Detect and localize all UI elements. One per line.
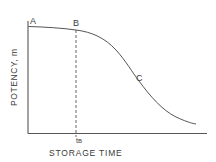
point-b-label: B xyxy=(73,19,79,28)
potency-curve xyxy=(29,27,197,125)
x-axis-label: STORAGE TIME xyxy=(49,148,123,158)
point-c-label: C xyxy=(136,74,143,83)
y-axis-label: POTENCY, m xyxy=(9,48,19,106)
tb-marker-label: tB xyxy=(76,136,82,146)
point-a-label: A xyxy=(30,17,36,26)
tb-subscript: B xyxy=(78,138,82,144)
